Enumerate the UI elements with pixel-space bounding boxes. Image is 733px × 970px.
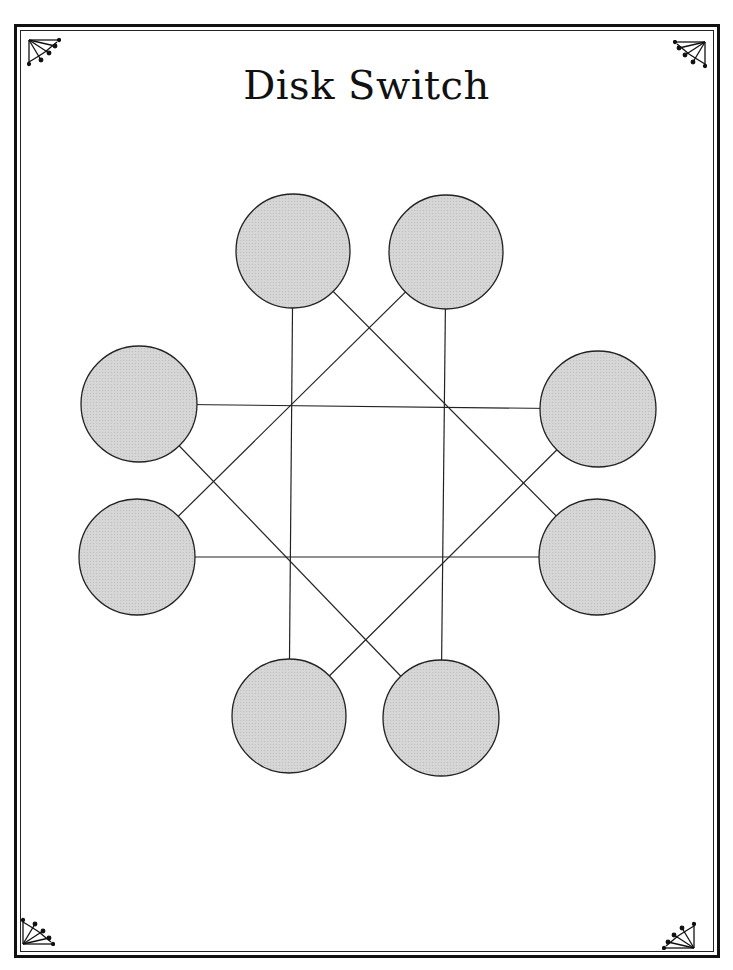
disk-bottom-right xyxy=(383,660,499,776)
worksheet-page: Disk Switch xyxy=(0,0,733,970)
connection-lines xyxy=(137,251,598,718)
disk-bottom-left xyxy=(232,659,346,773)
disk-top-left xyxy=(236,194,350,308)
disk-left-lower xyxy=(79,499,195,615)
connection-line-top-right-bottom-right xyxy=(441,252,446,718)
connection-line-top-left-bottom-left xyxy=(289,251,293,716)
disk-top-right xyxy=(389,195,503,309)
disk-right-lower xyxy=(539,499,655,615)
disk-switch-diagram xyxy=(0,0,733,970)
connection-line-left-upper-right-upper xyxy=(139,404,598,409)
disk-left-upper xyxy=(81,346,197,462)
disk-right-upper xyxy=(540,351,656,467)
disk-group xyxy=(79,194,656,776)
